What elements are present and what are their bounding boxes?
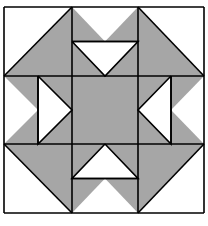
caption-clip: [0, 219, 208, 226]
quilt-block-diagram: [0, 0, 208, 226]
quilt-fills: [4, 7, 204, 213]
center-square: [72, 76, 138, 144]
